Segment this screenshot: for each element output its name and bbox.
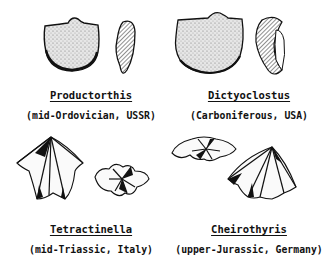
dictyoclostus-illustration (170, 10, 290, 75)
cheirothyris-illustration (170, 133, 310, 208)
origin-label-dictyoclostus: (Carboniferous, USA) (166, 110, 332, 121)
genus-label-tetractinella: Tetractinella (8, 223, 174, 235)
origin-label-cheirothyris: (upper-Jurassic, Germany) (166, 244, 332, 255)
genus-label-dictyoclostus: Dictyoclostus (166, 89, 332, 101)
tetractinella-illustration (15, 133, 155, 208)
productorthis-lateral-section (116, 21, 135, 73)
genus-label-productorthis: Productorthis (8, 89, 174, 101)
origin-label-productorthis: (mid-Ordovician, USSR) (8, 110, 174, 121)
productorthis-illustration (40, 10, 140, 75)
genus-label-cheirothyris: Cheirothyris (166, 223, 332, 235)
origin-label-tetractinella: (mid-Triassic, Italy) (8, 244, 174, 255)
